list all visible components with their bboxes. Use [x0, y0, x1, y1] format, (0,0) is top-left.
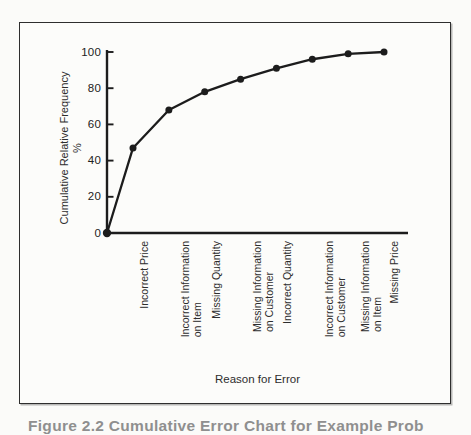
- data-point: [309, 56, 316, 63]
- category-label: Incorrect Information on Item: [180, 241, 203, 337]
- data-point: [381, 49, 388, 56]
- origin-point: [103, 229, 111, 237]
- category-label: Incorrect Price: [139, 241, 151, 309]
- data-point: [273, 65, 280, 72]
- data-point: [201, 88, 208, 95]
- category-label: Missing Price: [390, 241, 402, 303]
- y-axis-unit: %: [70, 143, 82, 153]
- figure-caption: Figure 2.2 Cumulative Error Chart for Ex…: [28, 417, 468, 435]
- data-point: [345, 50, 352, 57]
- y-tick-label: 80: [66, 82, 101, 95]
- category-label: Missing Information on Customer: [252, 241, 275, 332]
- category-label: Missing Quantity: [210, 241, 222, 319]
- y-tick-label: 20: [66, 190, 101, 203]
- y-tick-label: 40: [66, 154, 101, 167]
- category-label: Incorrect Quantity: [282, 241, 294, 324]
- x-axis-title: Reason for Error: [107, 373, 408, 385]
- data-point: [130, 144, 137, 151]
- data-point: [237, 76, 244, 83]
- y-tick-label: 60: [66, 118, 101, 131]
- cumulative-curve: [107, 52, 384, 233]
- y-tick-label: 100: [66, 46, 101, 59]
- category-label: Missing Information on Item: [360, 241, 383, 332]
- data-point: [165, 106, 172, 113]
- category-label: Incorrect Information on Customer: [324, 241, 347, 337]
- y-tick-label: 0: [66, 227, 101, 240]
